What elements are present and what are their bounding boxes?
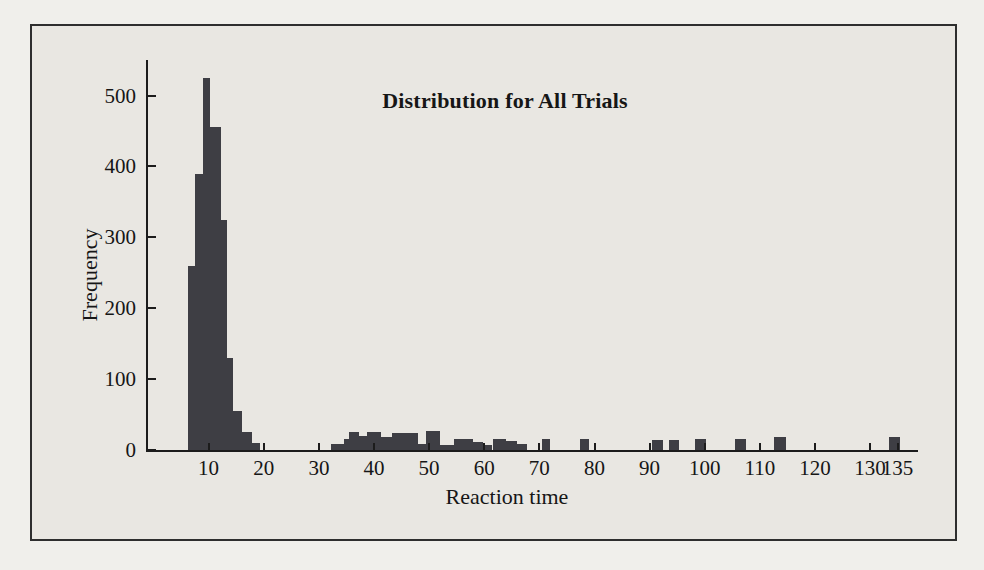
y-tick-label: 400 [76, 154, 136, 179]
x-tick [538, 443, 540, 450]
x-tick [759, 443, 761, 450]
histogram-bar [221, 220, 228, 451]
x-tick [428, 443, 430, 450]
histogram-bar [473, 442, 483, 450]
y-tick [148, 449, 156, 451]
x-tick [594, 443, 596, 450]
x-tick-label: 70 [529, 456, 550, 481]
histogram-bar [381, 437, 392, 450]
x-tick [814, 443, 816, 450]
x-tick-label: 30 [308, 456, 329, 481]
x-tick-label: 50 [419, 456, 440, 481]
histogram-bar [774, 437, 787, 450]
histogram-bar [454, 439, 473, 450]
histogram-bar [188, 266, 196, 450]
y-tick [148, 236, 156, 238]
histogram-bar [195, 174, 202, 451]
chart-title: Distribution for All Trials [320, 88, 690, 114]
histogram-bar [210, 127, 221, 450]
y-axis-line [146, 60, 148, 452]
x-tick [897, 443, 899, 450]
x-tick-label: 100 [689, 456, 721, 481]
x-tick-label: 90 [639, 456, 660, 481]
y-tick-label: 300 [76, 225, 136, 250]
histogram-bar [252, 443, 260, 450]
x-tick-label: 135 [882, 456, 914, 481]
histogram-bar [580, 439, 589, 450]
x-tick [483, 443, 485, 450]
histogram-bar [669, 440, 679, 450]
x-tick-label: 60 [474, 456, 495, 481]
histogram-bar [392, 433, 419, 450]
x-tick-label: 10 [198, 456, 219, 481]
x-tick [373, 443, 375, 450]
y-tick-label: 200 [76, 296, 136, 321]
x-tick-label: 80 [584, 456, 605, 481]
histogram-bar [652, 440, 663, 450]
x-axis-line [146, 450, 918, 452]
x-tick [704, 443, 706, 450]
histogram-bar [233, 411, 242, 450]
y-tick [148, 95, 156, 97]
x-tick [318, 443, 320, 450]
histogram-bar [359, 436, 367, 450]
y-tick-label: 100 [76, 367, 136, 392]
histogram-bar [349, 432, 359, 450]
x-tick-label: 110 [744, 456, 775, 481]
y-tick-label: 500 [76, 83, 136, 108]
x-tick-label: 20 [253, 456, 274, 481]
histogram-bar [735, 439, 746, 450]
x-tick [649, 443, 651, 450]
y-tick [148, 165, 156, 167]
histogram-bar [542, 439, 550, 450]
x-axis-label: Reaction time [407, 484, 607, 510]
histogram-bar [506, 441, 517, 450]
y-tick-label: 0 [76, 438, 136, 463]
y-tick [148, 378, 156, 380]
y-tick [148, 307, 156, 309]
x-tick [869, 443, 871, 450]
x-tick-label: 40 [364, 456, 385, 481]
histogram-canvas: Distribution for All Trials Frequency Re… [0, 0, 984, 570]
x-tick-label: 120 [799, 456, 831, 481]
x-tick [208, 443, 210, 450]
histogram-bar [242, 432, 252, 450]
histogram-bar [889, 437, 900, 450]
histogram-bar [493, 439, 507, 450]
x-tick [263, 443, 265, 450]
